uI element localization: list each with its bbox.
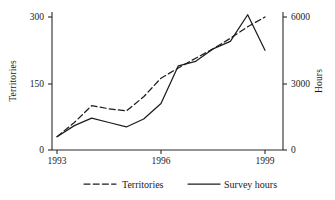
y-tick-label-right-0: 0 (291, 145, 296, 155)
chart-figure: 300 150 0 6000 3000 0 1993 1996 1999 Ter… (0, 0, 335, 200)
line-chart: 300 150 0 6000 3000 0 1993 1996 1999 Ter… (0, 0, 335, 200)
y-axis-label-hours: Hours (314, 69, 324, 93)
y-tick-label-right-3000: 3000 (291, 79, 310, 89)
y-tick-label-left-300: 300 (30, 12, 45, 22)
y-tick-label-right-6000: 6000 (291, 12, 310, 22)
y-tick-label-left-150: 150 (30, 79, 45, 89)
legend-label-territories: Territories (122, 179, 164, 190)
y-axis-label-territories: Territories (8, 60, 18, 102)
y-tick-label-left-0: 0 (39, 145, 44, 155)
x-tick-label-1999: 1999 (256, 156, 275, 166)
chart-legend: Territories Survey hours (84, 179, 277, 190)
x-tick-label-1993: 1993 (48, 156, 67, 166)
series-line-survey-hours (57, 15, 265, 137)
legend-label-survey-hours: Survey hours (224, 179, 277, 190)
x-tick-label-1996: 1996 (152, 156, 171, 166)
